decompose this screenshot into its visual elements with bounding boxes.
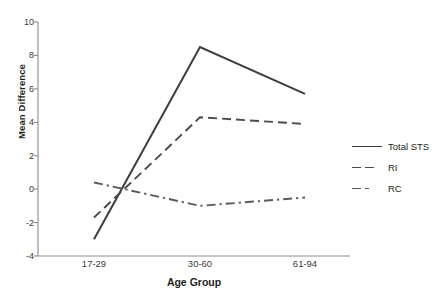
series-line-rc [94,182,305,205]
legend-line-swatch [352,184,382,194]
legend-line-swatch [352,163,382,173]
x-axis-tick-label: 30-60 [160,258,240,269]
chart-legend: Total STSRIRC [352,136,440,199]
series-line-ri [94,117,305,217]
x-axis-tick-label: 61-94 [265,258,345,269]
y-axis-tick-label: 10 [12,17,34,27]
legend-item[interactable]: RI [352,157,440,178]
y-axis-title: Mean Difference [16,37,27,167]
legend-item[interactable]: Total STS [352,136,440,157]
legend-label: RC [382,183,402,194]
y-axis-tick-label: -4 [12,251,34,261]
legend-line-swatch [352,142,382,152]
legend-label: Total STS [382,141,429,152]
legend-label: RI [382,162,398,173]
y-axis-tick-label: -2 [12,218,34,228]
x-axis-title: Age Group [38,276,350,288]
legend-item[interactable]: RC [352,178,440,199]
y-axis-tick-label: 0 [12,184,34,194]
x-axis-tick-label: 17-29 [54,258,134,269]
series-line-total-sts [94,47,305,239]
chart-container: -4-20246810 17-2930-6061-94 Mean Differe… [0,0,440,300]
